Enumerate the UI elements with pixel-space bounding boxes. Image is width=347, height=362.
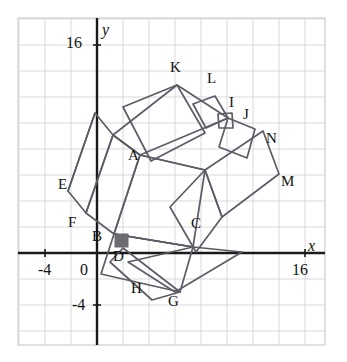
point-label-g: G <box>168 294 179 309</box>
point-label-c: C <box>191 216 201 231</box>
point-label-f: F <box>68 215 76 230</box>
y-tick-label--4: -4 <box>72 297 85 313</box>
point-label-b: B <box>92 229 102 244</box>
coordinate-figure: ABCDEFGHIJKLMN xy-401616-4 <box>0 0 347 362</box>
diag-A-C <box>140 155 205 170</box>
x-axis-label: x <box>308 238 315 254</box>
y-tick-label-16: 16 <box>66 35 82 51</box>
point-label-n: N <box>266 131 277 146</box>
point-label-a: A <box>128 148 139 163</box>
edge-E-B <box>68 113 95 191</box>
x-tick-label-16: 16 <box>292 262 308 278</box>
point-label-m: M <box>281 174 294 189</box>
square-J-N-right <box>219 118 255 158</box>
point-label-h: H <box>131 281 142 296</box>
x-tick-label-0: 0 <box>80 262 88 278</box>
point-label-l: L <box>207 71 216 86</box>
y-axis-label: y <box>102 22 109 38</box>
point-label-d: D <box>113 249 124 264</box>
filled-square-marker <box>115 234 128 247</box>
point-label-k: K <box>170 60 181 75</box>
point-label-i: I <box>229 95 234 110</box>
point-label-e: E <box>58 177 67 192</box>
square-C-M-lower-right <box>170 170 222 252</box>
marker-filled-square <box>115 234 128 247</box>
point-label-j: J <box>243 107 249 122</box>
x-tick-label--4: -4 <box>38 262 51 278</box>
